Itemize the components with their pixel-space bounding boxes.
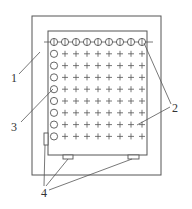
plus-marker (95, 63, 101, 69)
label-2: 2 (172, 101, 178, 115)
plus-marker (117, 122, 123, 128)
plus-marker (139, 63, 145, 69)
plus-marker (95, 74, 101, 80)
circle-marker (50, 86, 57, 93)
plus-marker (106, 122, 112, 128)
plus-marker (106, 86, 112, 92)
bottom-pad-right (128, 155, 139, 159)
leader-lines (19, 43, 171, 190)
plus-marker (62, 63, 68, 69)
plus-marker (128, 110, 134, 116)
marker-grid (50, 38, 145, 140)
plus-marker (139, 133, 145, 139)
leader-line-4 (46, 159, 68, 186)
label-1: 1 (11, 71, 17, 85)
plus-marker (84, 86, 90, 92)
plus-marker (128, 86, 134, 92)
circle-cross-marker (72, 38, 79, 45)
plus-marker (62, 86, 68, 92)
circle-marker (50, 97, 57, 104)
plus-marker (106, 133, 112, 139)
circle-cross-marker (50, 38, 57, 45)
plus-marker (128, 122, 134, 128)
plus-marker (84, 110, 90, 116)
plus-marker (139, 98, 145, 104)
plus-marker (139, 110, 145, 116)
plus-marker (106, 110, 112, 116)
circle-marker (50, 133, 57, 140)
leader-line-1 (19, 52, 40, 74)
circle-marker (50, 50, 57, 57)
plus-marker (106, 98, 112, 104)
plus-marker (73, 86, 79, 92)
plus-marker (106, 51, 112, 57)
plus-marker (73, 74, 79, 80)
plus-marker (62, 74, 68, 80)
plus-marker (128, 51, 134, 57)
plus-marker (73, 63, 79, 69)
plus-marker (84, 122, 90, 128)
plus-marker (62, 133, 68, 139)
leader-line-2 (144, 43, 171, 104)
plus-marker (95, 110, 101, 116)
plus-marker (73, 110, 79, 116)
plus-marker (62, 122, 68, 128)
plus-marker (84, 98, 90, 104)
plus-marker (128, 74, 134, 80)
circle-cross-marker (83, 38, 90, 45)
plus-marker (139, 86, 145, 92)
plus-marker (139, 74, 145, 80)
circle-marker (50, 74, 57, 81)
plus-marker (117, 110, 123, 116)
left-pad (44, 133, 48, 145)
plus-marker (84, 133, 90, 139)
plus-marker (95, 133, 101, 139)
plus-marker (73, 51, 79, 57)
circle-cross-marker (105, 38, 112, 45)
circle-cross-marker (61, 38, 68, 45)
plus-marker (128, 98, 134, 104)
plus-marker (62, 51, 68, 57)
plus-marker (139, 51, 145, 57)
plus-marker (128, 133, 134, 139)
circle-marker (50, 121, 57, 128)
plus-marker (73, 122, 79, 128)
plus-marker (84, 74, 90, 80)
leader-line-4 (44, 145, 45, 186)
circle-marker (50, 109, 57, 116)
plus-marker (62, 110, 68, 116)
plus-marker (84, 63, 90, 69)
plus-marker (117, 74, 123, 80)
plus-marker (117, 133, 123, 139)
circle-cross-marker (94, 38, 101, 45)
circle-cross-marker (116, 38, 123, 45)
diagram-canvas: 1234 (0, 0, 192, 209)
plus-marker (73, 98, 79, 104)
circle-cross-marker (127, 38, 134, 45)
plus-marker (95, 122, 101, 128)
bottom-pad-left (63, 155, 73, 159)
label-4: 4 (41, 186, 47, 200)
plus-marker (95, 51, 101, 57)
plus-marker (117, 51, 123, 57)
plus-marker (84, 51, 90, 57)
plus-marker (117, 86, 123, 92)
circle-marker (50, 62, 57, 69)
plus-marker (106, 74, 112, 80)
plus-marker (95, 86, 101, 92)
plus-marker (95, 98, 101, 104)
plus-marker (117, 63, 123, 69)
plus-marker (117, 98, 123, 104)
plus-marker (62, 98, 68, 104)
plus-marker (128, 63, 134, 69)
plus-marker (73, 133, 79, 139)
plus-marker (106, 63, 112, 69)
label-3: 3 (11, 120, 17, 134)
leader-line-2 (137, 107, 170, 125)
callout-labels: 1234 (11, 71, 178, 200)
